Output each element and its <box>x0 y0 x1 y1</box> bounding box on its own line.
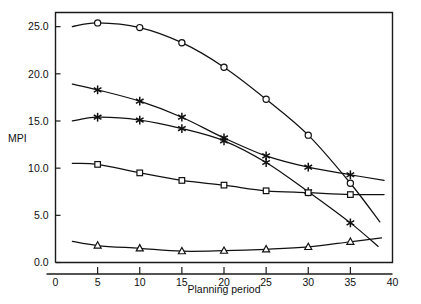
y-tick-label: 10.0 <box>28 162 49 174</box>
data-point-star-marker <box>136 97 144 106</box>
series-line <box>72 238 381 251</box>
data-point-square-marker <box>263 188 269 194</box>
data-point-star-marker <box>94 85 102 94</box>
x-axis-ticks <box>98 267 351 274</box>
data-point-circle-marker <box>221 64 227 70</box>
data-point-square-marker <box>348 192 354 198</box>
data-point-square-marker <box>137 170 143 176</box>
chart-axes: 0.05.010.015.020.025.0 0510152025303540 <box>28 13 398 288</box>
x-tick-label: 30 <box>302 276 314 288</box>
data-point-star-marker <box>178 124 186 133</box>
data-point-star-marker <box>262 158 270 167</box>
data-point-circle-marker <box>137 24 143 30</box>
x-tick-label: 0 <box>53 276 59 288</box>
series-triangle <box>72 238 381 254</box>
y-axis-title: MPI <box>8 132 27 144</box>
data-point-square-marker <box>95 162 101 168</box>
y-tick-label: 0.0 <box>34 256 49 268</box>
series-line <box>72 84 384 180</box>
y-tick-label: 15.0 <box>28 115 49 127</box>
data-point-square-marker <box>305 190 311 196</box>
data-point-star-marker <box>347 218 355 227</box>
data-point-circle-marker <box>95 20 101 26</box>
x-tick-label: 10 <box>134 276 146 288</box>
series-star-upper <box>72 84 384 180</box>
data-point-circle-marker <box>305 132 311 138</box>
data-point-star-marker <box>178 113 186 122</box>
x-tick-label: 5 <box>95 276 101 288</box>
y-tick-label: 20.0 <box>28 68 49 80</box>
y-tick-label: 5.0 <box>34 209 49 221</box>
series-line <box>72 23 380 222</box>
mpi-planning-period-line-chart: 0.05.010.015.020.025.0 0510152025303540 … <box>0 0 421 304</box>
data-point-circle-marker <box>263 96 269 102</box>
data-point-square-marker <box>179 178 185 184</box>
x-tick-label: 25 <box>260 276 272 288</box>
chart-container: 0.05.010.015.020.025.0 0510152025303540 … <box>0 0 421 304</box>
series-star-lower <box>72 113 378 247</box>
data-point-square-marker <box>221 182 227 188</box>
data-point-star-marker <box>220 136 228 145</box>
x-tick-label: 35 <box>345 276 357 288</box>
series-circle <box>72 20 380 222</box>
y-axis-tick-labels: 0.05.010.015.020.025.0 <box>28 20 49 268</box>
x-tick-label: 40 <box>387 276 399 288</box>
y-tick-label: 25.0 <box>28 20 49 32</box>
data-point-circle-marker <box>179 40 185 46</box>
chart-series-group <box>72 20 384 254</box>
x-axis-title: Planning period <box>188 283 261 295</box>
x-tick-label: 15 <box>176 276 188 288</box>
y-axis-ticks <box>56 27 61 263</box>
data-point-circle-marker <box>347 180 353 186</box>
